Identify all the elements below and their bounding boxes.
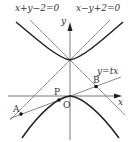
y-axis — [68, 22, 73, 140]
label-origin: O — [63, 100, 70, 110]
point-P — [57, 98, 61, 102]
label-x-axis: x — [118, 97, 123, 107]
line-y-equals-tx — [10, 77, 121, 119]
y-axis-arrow-icon — [68, 22, 73, 31]
label-point-A: A — [12, 104, 20, 114]
point-A — [19, 112, 23, 116]
math-figure: x+y−2=0 x−y+2=0 y x y=tx A P B O — [0, 0, 128, 142]
point-B — [94, 85, 98, 89]
label-asymptote-left: x+y−2=0 — [15, 3, 60, 13]
label-point-B: B — [93, 75, 100, 85]
lower-curve — [22, 96, 119, 138]
label-y-axis: y — [60, 16, 67, 26]
label-point-P: P — [54, 87, 60, 97]
line-x-minus-y-plus-2 — [10, 20, 110, 120]
label-asymptote-right: x−y+2=0 — [76, 3, 121, 13]
